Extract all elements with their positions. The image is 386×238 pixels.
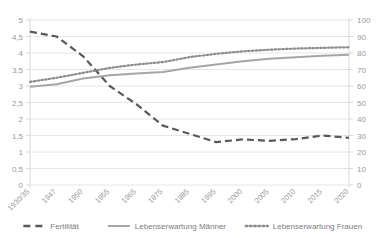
right-axis-tick-label: 60 (357, 82, 366, 91)
right-axis-tick-label: 30 (357, 132, 366, 141)
left-axis-tick-label: 3 (19, 82, 24, 91)
fertility-life-expectancy-chart: 00,511,522,533,544,55 010203040506070809… (0, 0, 386, 238)
left-axis-tick-label: 3,5 (12, 66, 24, 75)
right-axis-tick-label: 70 (357, 66, 366, 75)
right-axis-tick-label: 80 (357, 49, 366, 58)
right-axis-tick-label: 50 (357, 99, 366, 108)
chart-legend[interactable]: FertilitätLebenserwartung MännerLebenser… (23, 222, 362, 231)
right-axis-tick-label: 90 (357, 33, 366, 42)
left-axis-tick-label: 1 (19, 148, 24, 157)
left-axis-tick-label: 0,5 (12, 165, 24, 174)
legend-label: Lebenserwartung Männer (135, 222, 227, 231)
right-axis-tick-label: 0 (357, 181, 362, 190)
left-axis-tick-label: 1,5 (12, 132, 24, 141)
left-axis-tick-label: 5 (19, 16, 24, 25)
legend-label: Lebenserwartung Frauen (273, 222, 362, 231)
left-axis-tick-label: 4,5 (12, 33, 24, 42)
left-axis-tick-label: 2,5 (12, 99, 24, 108)
right-axis-tick-label: 100 (357, 16, 371, 25)
chart-canvas: 00,511,522,533,544,55 010203040506070809… (0, 0, 386, 238)
right-axis-tick-label: 20 (357, 148, 366, 157)
left-axis-tick-label: 2 (19, 115, 24, 124)
legend-label: Fertilität (50, 222, 79, 231)
left-axis-tick-label: 4 (19, 49, 24, 58)
right-axis-tick-label: 10 (357, 165, 366, 174)
right-axis-tick-label: 40 (357, 115, 366, 124)
